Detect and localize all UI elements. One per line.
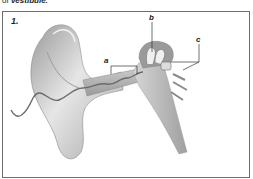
ear-anatomy-illustration	[3, 12, 249, 177]
pinna-shape	[31, 25, 123, 159]
leader-line-c	[171, 44, 199, 70]
label-a: a	[104, 56, 108, 65]
caption-term: vestibule.	[11, 0, 48, 5]
inner-ear-cone	[133, 60, 187, 155]
label-b: b	[149, 13, 154, 22]
caption-text: of vestibule.	[2, 0, 48, 5]
label-c: c	[196, 35, 200, 44]
caption-prefix: of	[2, 0, 11, 5]
figure-frame: 1. a b c	[2, 11, 250, 178]
figure-number: 1.	[11, 16, 19, 26]
